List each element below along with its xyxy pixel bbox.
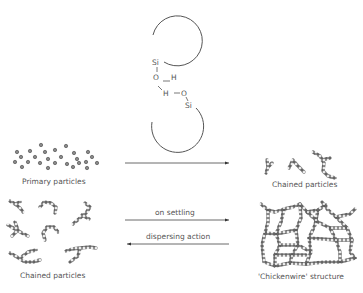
chickenwire-network (261, 202, 355, 266)
primary-particles (13, 143, 98, 169)
atom-h-top: H (171, 73, 177, 82)
atom-si-top: Si (152, 58, 159, 67)
atom-h-bottom: H (163, 89, 169, 98)
label-chickenwire-structure: 'Chickenwire' structure (258, 272, 344, 281)
atom-o-top: O (153, 73, 159, 82)
label-chained-particles-left: Chained particles (20, 271, 85, 280)
label-chained-particles-right: Chained particles (272, 180, 337, 189)
diagram-canvas (0, 0, 363, 293)
chained-particles-right (266, 152, 335, 178)
label-primary-particles: Primary particles (22, 177, 86, 186)
silica-sphere-bottom (152, 108, 204, 152)
atom-si-bottom: Si (185, 101, 192, 110)
label-on-settling: on settling (155, 208, 195, 217)
silica-sphere-top (153, 16, 202, 66)
label-dispersing-action: dispersing action (146, 232, 210, 241)
chained-particles-left (8, 201, 96, 262)
atom-o-bottom: O (181, 89, 187, 98)
